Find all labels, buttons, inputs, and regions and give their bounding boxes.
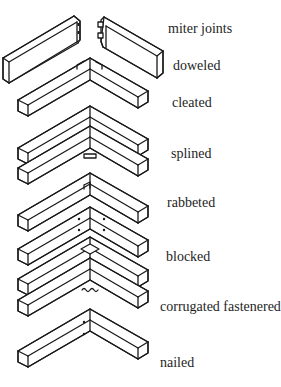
corrugated-fastener-icon xyxy=(82,289,98,292)
label-rabbeted: rabbeted xyxy=(167,196,215,210)
dowel-icon xyxy=(98,33,103,38)
label-blocked: blocked xyxy=(166,250,210,264)
label-corrugated-fastenered: corrugated fastenered xyxy=(160,300,281,314)
dowel-icon xyxy=(98,22,103,27)
label-miter-joints: miter joints xyxy=(168,22,232,36)
label-doweled: doweled xyxy=(173,59,220,73)
nailed-joint-drawing xyxy=(18,309,148,367)
label-cleated: cleated xyxy=(172,96,212,110)
miter-joints-diagram xyxy=(0,0,281,387)
label-nailed: nailed xyxy=(160,356,194,370)
spline-icon xyxy=(84,154,96,158)
label-splined: splined xyxy=(171,147,211,161)
